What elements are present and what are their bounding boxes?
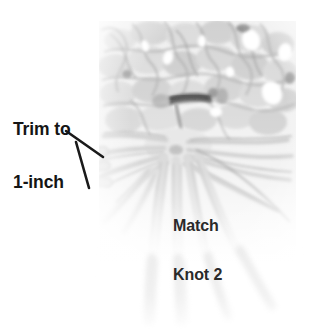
annotation-match-line-2: Knot 2	[173, 267, 222, 283]
annotation-trim-line-2: 1-inch	[13, 174, 71, 192]
instructional-figure: Trim to 1-inch Match Knot 2	[0, 0, 311, 330]
annotation-trim-to-1-inch: Trim to 1-inch	[13, 85, 71, 228]
annotation-trim-line-1: Trim to	[13, 121, 71, 139]
annotation-match-line-1: Match	[173, 218, 222, 234]
annotation-match-knot-2: Match Knot 2	[173, 185, 222, 316]
